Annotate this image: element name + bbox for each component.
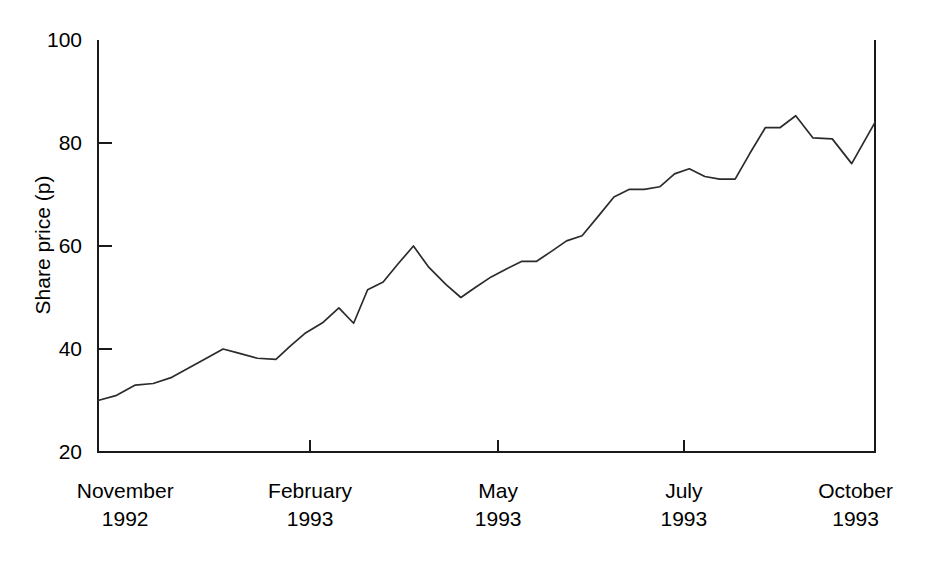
x-tick-label: February1993 [268,479,353,530]
x-tick-label: October1993 [818,479,893,530]
x-tick-label-month: February [268,479,353,502]
axis-frame [98,40,875,452]
y-tick-label: 40 [59,337,82,360]
line-chart: Share price (p) 20406080100 November1992… [0,0,932,565]
axis-layer [98,40,875,452]
x-tick-label-year: 1993 [832,507,879,530]
data-series-layer [98,116,875,401]
x-tick-label: July1993 [660,479,707,530]
y-tick-label: 20 [59,440,82,463]
x-tick-label-year: 1993 [287,507,334,530]
chart-container: Share price (p) 20406080100 November1992… [0,0,932,565]
y-tick-label: 80 [59,131,82,154]
y-tick-label: 100 [47,28,82,51]
y-tick-label: 60 [59,234,82,257]
x-tick-label-month: May [478,479,518,502]
x-tick-label-year: 1992 [102,507,149,530]
x-tick-label-month: November [77,479,174,502]
series-share-price [98,116,875,401]
x-tick-label-month: October [818,479,893,502]
x-tick-label: November1992 [77,479,174,530]
y-axis-title: Share price (p) [31,176,54,315]
x-tick-label-year: 1993 [660,507,707,530]
x-tick-label-month: July [665,479,703,502]
x-tick-label: May1993 [475,479,522,530]
x-tick-label-year: 1993 [475,507,522,530]
x-tick-labels: November1992February1993May1993July1993O… [77,479,893,530]
